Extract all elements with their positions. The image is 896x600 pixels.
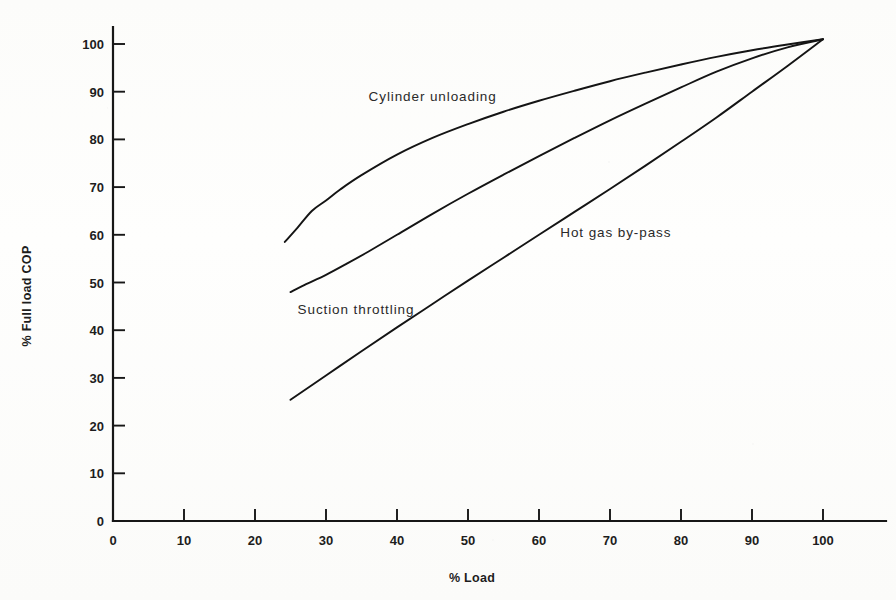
x-tick-label: 60 (532, 533, 546, 548)
series-annotation-label: Cylinder unloading (369, 89, 497, 104)
series-label-group: Cylinder unloadingSuction throttlingHot … (298, 89, 672, 316)
x-tick-label: 10 (177, 533, 191, 548)
x-tick-label: 20 (248, 533, 262, 548)
x-tick-label: 100 (812, 533, 834, 548)
x-tick-label: 40 (390, 533, 404, 548)
x-axis-title: % Load (449, 571, 495, 585)
series-group (285, 39, 823, 400)
x-tick-label: 90 (745, 533, 759, 548)
y-tick-label: 20 (90, 419, 104, 434)
x-tick-label: 50 (461, 533, 475, 548)
x-tick-label: 0 (109, 533, 116, 548)
y-tick-label: 100 (82, 37, 104, 52)
y-tick-label: 60 (90, 228, 104, 243)
y-tick-label: 40 (90, 323, 104, 338)
y-tick-label: 0 (97, 514, 104, 529)
x-tick-label: 80 (674, 533, 688, 548)
series-curve (285, 39, 823, 242)
line-chart: 0102030405060708090100 01020304050607080… (0, 0, 896, 600)
y-tick-label: 30 (90, 371, 104, 386)
series-annotation-label: Suction throttling (298, 302, 415, 317)
y-axis-title: % Full load COP (20, 245, 34, 346)
series-annotation-label: Hot gas by-pass (560, 225, 671, 240)
y-tick-label: 50 (90, 276, 104, 291)
y-tick-label: 90 (90, 85, 104, 100)
x-tick-group: 0102030405060708090100 (109, 509, 833, 548)
y-tick-label: 80 (90, 132, 104, 147)
y-tick-label: 70 (90, 180, 104, 195)
chart-page: 0102030405060708090100 01020304050607080… (0, 0, 896, 600)
x-tick-label: 30 (319, 533, 333, 548)
series-curve (291, 39, 824, 292)
y-tick-group: 0102030405060708090100 (82, 37, 125, 529)
y-tick-label: 10 (90, 466, 104, 481)
x-tick-label: 70 (603, 533, 617, 548)
